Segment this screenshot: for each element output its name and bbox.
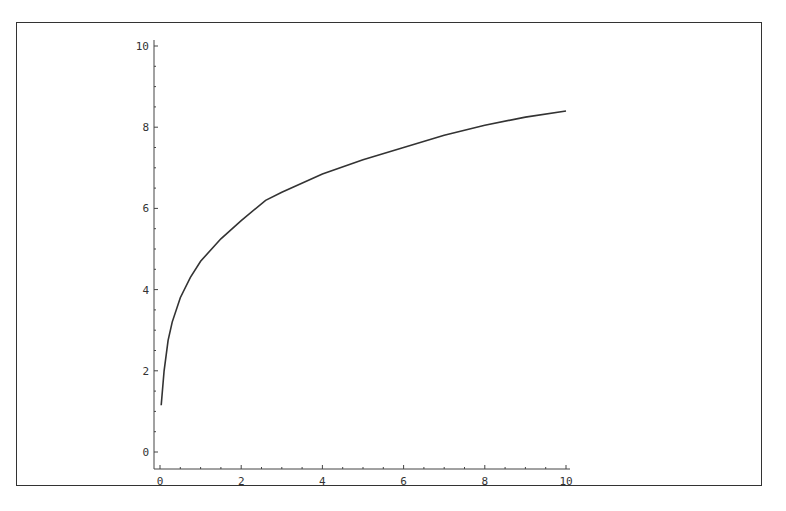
axes: 02468100246810 bbox=[136, 40, 573, 488]
line-chart: 02468100246810 bbox=[0, 0, 786, 511]
data-line bbox=[161, 111, 566, 405]
x-tick-label: 6 bbox=[400, 475, 407, 488]
y-tick-label: 6 bbox=[142, 202, 149, 215]
y-tick-label: 2 bbox=[142, 365, 149, 378]
x-tick-label: 0 bbox=[157, 475, 164, 488]
x-tick-label: 8 bbox=[481, 475, 488, 488]
x-tick-label: 2 bbox=[238, 475, 245, 488]
y-tick-label: 8 bbox=[142, 121, 149, 134]
y-tick-label: 0 bbox=[142, 446, 149, 459]
y-tick-label: 4 bbox=[142, 284, 149, 297]
x-tick-label: 4 bbox=[319, 475, 326, 488]
x-tick-label: 10 bbox=[559, 475, 572, 488]
y-tick-label: 10 bbox=[136, 40, 149, 53]
